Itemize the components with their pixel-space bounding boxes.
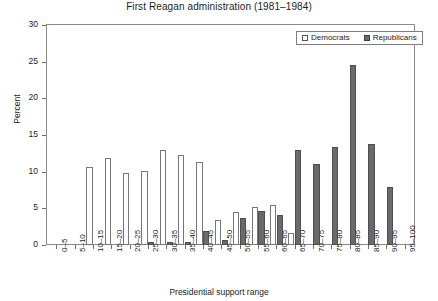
x-axis-label: Presidential support range: [0, 287, 438, 297]
x-tick-mark: [350, 245, 351, 249]
bar-republicans-50-55: [240, 218, 246, 245]
x-tick-mark: [111, 245, 112, 249]
plot-area: [47, 25, 414, 245]
x-tick-mark: [240, 245, 241, 249]
legend-item-democrats: Democrats: [302, 34, 350, 42]
x-tick-mark: [203, 245, 204, 249]
y-tick-25: 25: [0, 62, 46, 63]
x-tick-mark: [185, 245, 186, 249]
x-tick-mark: [148, 245, 149, 249]
y-tick-label: 30: [29, 19, 38, 29]
bar-republicans-30-35: [167, 242, 173, 245]
x-tick-mark: [221, 245, 222, 249]
bar-democrats-30-35: [160, 150, 166, 245]
y-tick-20: 20: [0, 98, 46, 99]
bar-democrats-10-15: [86, 167, 92, 245]
x-tick-mark: [130, 245, 131, 249]
y-axis-label: Percent: [12, 64, 22, 154]
y-tick-label: 25: [29, 56, 38, 66]
x-tick-mark: [386, 245, 387, 249]
y-tick-label: 15: [29, 129, 38, 139]
y-tick-5: 5: [0, 208, 46, 209]
x-tick-mark: [166, 245, 167, 249]
bar-republicans-45-50: [222, 240, 228, 245]
x-tick-mark: [258, 245, 259, 249]
y-tick-10: 10: [0, 172, 46, 173]
x-tick-mark: [331, 245, 332, 249]
legend-swatch-republicans: [364, 35, 370, 41]
y-tick-label: 10: [29, 166, 38, 176]
bar-republicans-85-90: [368, 144, 374, 245]
y-tick-mark: [42, 25, 46, 26]
bar-republicans-65-70: [295, 150, 301, 245]
bar-democrats-25-30: [141, 171, 147, 245]
x-tick-mark: [93, 245, 94, 249]
bar-democrats-55-60: [252, 207, 258, 245]
x-tick-mark: [75, 245, 76, 249]
y-tick-15: 15: [0, 135, 46, 136]
bar-republicans-35-40: [185, 242, 191, 245]
bar-republicans-60-65: [277, 215, 283, 245]
bar-democrats-45-50: [215, 220, 221, 245]
y-tick-mark: [42, 98, 46, 99]
bar-democrats-50-55: [233, 212, 239, 245]
x-tick-mark: [56, 245, 57, 249]
chart-legend: Democrats Republicans: [296, 31, 423, 45]
x-tick-mark: [295, 245, 296, 249]
legend-label-democrats: Democrats: [311, 34, 350, 42]
bar-democrats-15-20: [105, 158, 111, 245]
bar-republicans-80-85: [350, 65, 356, 245]
bar-republicans-25-30: [148, 242, 154, 245]
bar-democrats-60-65: [270, 205, 276, 245]
y-tick-mark: [42, 172, 46, 173]
x-tick-mark: [313, 245, 314, 249]
bar-democrats-40-45: [196, 162, 202, 245]
y-tick-0: 0: [0, 245, 46, 246]
bar-republicans-90-95: [387, 187, 393, 245]
y-tick-label: 20: [29, 92, 38, 102]
bar-republicans-55-60: [258, 211, 264, 245]
x-tick-mark: [405, 245, 406, 249]
bar-democrats-35-40: [178, 155, 184, 245]
x-tick-mark: [276, 245, 277, 249]
y-tick-mark: [42, 62, 46, 63]
legend-label-republicans: Republicans: [373, 34, 417, 42]
chart-figure: First Reagan administration (1981–1984) …: [0, 0, 438, 301]
bar-democrats-65-70: [288, 233, 294, 245]
x-tick-mark: [368, 245, 369, 249]
y-tick-30: 30: [0, 25, 46, 26]
bar-republicans-40-45: [203, 231, 209, 245]
y-tick-mark: [42, 135, 46, 136]
bar-republicans-70-75: [313, 164, 319, 245]
bar-republicans-75-80: [332, 147, 338, 245]
y-tick-mark: [42, 208, 46, 209]
chart-title: First Reagan administration (1981–1984): [0, 1, 438, 12]
y-tick-label: 5: [33, 202, 38, 212]
y-tick-mark: [42, 245, 46, 246]
legend-item-republicans: Republicans: [364, 34, 417, 42]
legend-swatch-democrats: [302, 35, 308, 41]
y-tick-label: 0: [33, 239, 38, 249]
bar-democrats-20-25: [123, 173, 129, 245]
